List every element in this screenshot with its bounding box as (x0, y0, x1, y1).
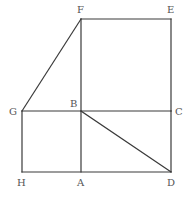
label-H: H (17, 177, 26, 188)
label-B: B (70, 98, 77, 109)
label-E: E (167, 4, 174, 15)
segment-BD (81, 111, 171, 172)
label-D: D (167, 177, 175, 188)
label-G: G (9, 106, 17, 117)
label-C: C (175, 106, 183, 117)
label-F: F (77, 4, 84, 15)
diagram-svg: F E G B C H A D (0, 0, 190, 199)
geometry-diagram: F E G B C H A D (0, 0, 190, 199)
label-A: A (76, 177, 85, 188)
